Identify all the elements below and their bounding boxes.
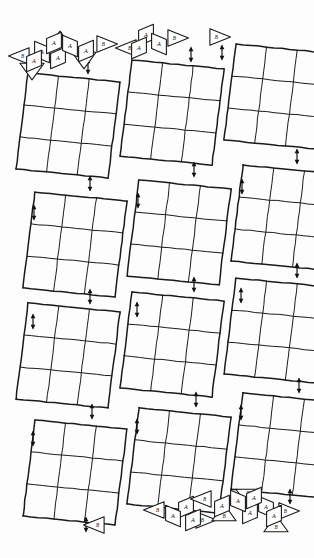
tile-label-rhombus: A [183, 503, 188, 510]
tile-cluster-large: BBBBBAAAAAA [9, 31, 118, 80]
tile-label-rhombus: A [55, 54, 60, 61]
tile-triangle-B [210, 29, 231, 46]
panel-row-line [35, 420, 127, 429]
arrow-L-4 [31, 314, 36, 330]
panel-col-line [181, 66, 193, 162]
panel-R4 [231, 393, 314, 499]
arrow-R-bottom [288, 489, 293, 505]
arrow-R-4 [239, 288, 244, 304]
grid-panels-group [16, 44, 314, 525]
panel-col-line [151, 63, 163, 159]
panel-R2 [231, 165, 314, 270]
arrow-R-1 [295, 149, 300, 165]
tile-label-rhombus: A [51, 39, 56, 46]
panel-row-line [28, 73, 120, 82]
panel-M1 [120, 60, 224, 165]
panel-row-line [124, 124, 216, 133]
panel-row-line [131, 472, 223, 481]
tile-label-rhombus: A [190, 516, 195, 523]
panel-row-line [139, 180, 231, 189]
double-arrow-icon [288, 489, 293, 505]
panel-row-line [135, 212, 227, 221]
panel-row-line [31, 224, 123, 233]
tile-label-rhombus: A [219, 502, 224, 509]
panel-col-line [127, 180, 139, 276]
panel-col-line [212, 301, 224, 397]
panel-col-line [84, 198, 96, 294]
panel-row-line [228, 342, 314, 351]
panel-M4 [127, 408, 231, 514]
panel-row-line [20, 137, 111, 146]
panel-row-line [228, 108, 314, 117]
panel-col-line [120, 292, 132, 388]
middle-column [120, 60, 232, 513]
panel-col-line [224, 278, 236, 374]
tile-label-rhombus: A [170, 512, 175, 519]
panel-col-line [262, 396, 274, 492]
panel-col-line [54, 195, 66, 291]
double-arrow-icon [297, 378, 302, 394]
tile-label-rhombus: A [136, 44, 141, 51]
panel-row-line [28, 303, 120, 312]
panel-row-line [24, 105, 117, 114]
double-arrow-icon [88, 176, 93, 192]
panel-col-line [115, 429, 127, 525]
panel-row-line [124, 356, 217, 365]
panel-col-line [158, 411, 170, 507]
panel-row-line [239, 197, 314, 206]
tile-label-rhombus: A [247, 509, 252, 516]
panel-col-line [224, 44, 236, 140]
panel-col-line [231, 165, 243, 261]
panel-row-line [132, 60, 224, 69]
tiling-diagram-svg: BBBBBAAAAAABBAAABBBBAAABBBBBAAAAAA [0, 0, 314, 558]
double-arrow-icon [239, 288, 244, 304]
panel-col-line [108, 312, 120, 408]
tile-label-rhombus: A [251, 494, 256, 501]
double-arrow-icon [295, 263, 300, 279]
arrow-M-top [189, 47, 194, 63]
panel-col-line [293, 171, 305, 267]
tile-label-rhombus: A [235, 497, 240, 504]
panel-row-line [127, 276, 219, 284]
double-arrow-icon [194, 392, 199, 408]
panel-row-line [16, 399, 108, 407]
tile-label-rhombus: A [143, 31, 148, 38]
arrow-R-3 [295, 263, 300, 279]
tile-label-rhombus: A [271, 512, 276, 519]
panel-row-line [120, 156, 212, 165]
left-column [16, 73, 127, 525]
panel-col-line [285, 284, 297, 381]
panel-row-line [235, 457, 314, 466]
panel-R3 [224, 278, 314, 383]
panel-row-line [236, 278, 314, 287]
panel-col-line [255, 47, 267, 143]
panel-row-line [135, 440, 227, 450]
panel-row-line [35, 192, 127, 201]
panel-col-line [77, 79, 89, 175]
panel-row-line [27, 484, 119, 493]
panel-col-line [16, 303, 28, 399]
panel-row-line [232, 76, 314, 85]
double-arrow-icon [88, 289, 93, 305]
panel-row-line [236, 44, 314, 53]
tile-triangle-B [9, 48, 30, 65]
panel-row-line [239, 425, 314, 434]
panel-row-line [128, 92, 220, 101]
panel-col-line [77, 309, 89, 405]
panel-row-line [235, 229, 314, 238]
panel-row-line [31, 452, 123, 461]
arrow-R-top [220, 45, 225, 61]
double-arrow-icon [189, 47, 194, 63]
panel-col-line [151, 295, 163, 391]
tile-label-rhombus: A [31, 57, 36, 64]
tile-label-rhombus: A [83, 47, 88, 54]
arrow-M-6 [135, 419, 140, 435]
panel-col-line [292, 399, 304, 495]
double-arrow-icon [135, 419, 140, 435]
tile-cluster-single: B [210, 29, 231, 46]
arrow-M-3 [192, 277, 197, 293]
panel-row-line [27, 256, 119, 265]
panel-col-line [115, 201, 127, 297]
panel-L1 [16, 73, 120, 178]
panel-row-line [20, 367, 112, 376]
